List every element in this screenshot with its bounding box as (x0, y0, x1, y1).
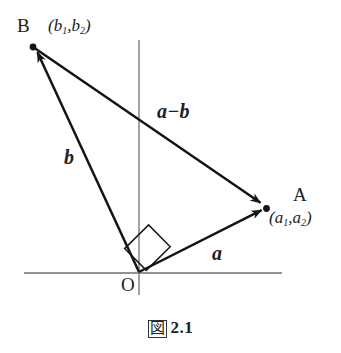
figure-caption: 図2.1 (0, 318, 341, 338)
vector-figure: B (b1,b2) A (a1,a2) O a b a−b 図2.1 (0, 0, 341, 353)
b2-subscript: 2 (80, 25, 85, 36)
origin-label: O (121, 275, 135, 294)
vector-a-minus-b-line (33, 47, 261, 203)
figure-caption-number: 2.1 (170, 318, 193, 337)
vector-diagram-svg (0, 0, 341, 353)
a1-subscript: 1 (283, 217, 288, 228)
a1-base: a (275, 208, 284, 227)
figure-caption-symbol: 図 (148, 320, 168, 338)
point-b-coordinates: (b1,b2) (48, 17, 91, 34)
point-label-a: A (293, 185, 307, 204)
a2-subscript: 2 (301, 217, 306, 228)
b1-subscript: 1 (62, 25, 67, 36)
vector-a-line (139, 210, 262, 272)
point-a-coordinates: (a1,a2) (269, 209, 312, 226)
right-angle-marker (125, 225, 171, 271)
paren-close: ) (85, 16, 91, 35)
vector-a-label: a (212, 243, 222, 263)
vector-a-minus-b-label: a−b (157, 101, 190, 121)
paren-close: ) (306, 208, 312, 227)
b2-base: b (71, 16, 80, 35)
vector-b-label: b (64, 147, 74, 167)
point-label-b: B (17, 16, 30, 35)
b1-base: b (54, 16, 63, 35)
a2-base: a (292, 208, 301, 227)
point-B-dot (30, 44, 37, 51)
